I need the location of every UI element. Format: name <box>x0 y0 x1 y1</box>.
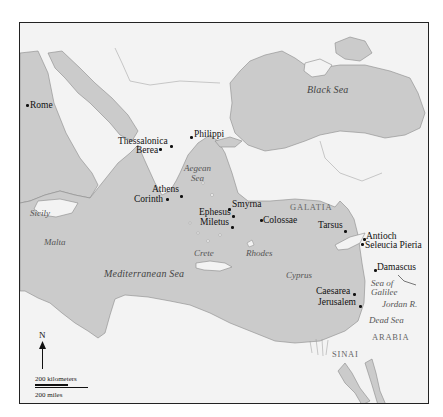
water-label-dead-sea: Dead Sea <box>369 316 404 325</box>
island-label-cyprus: Cyprus <box>286 271 312 280</box>
city-label-seleucia-pieria: Seleucia Pieria <box>365 241 422 251</box>
city-marker-caesarea <box>353 293 356 296</box>
island-label-crete: Crete <box>194 249 214 258</box>
region-label-arabia: ARABIA <box>372 333 409 342</box>
city-label-philippi: Philippi <box>194 130 224 140</box>
water-label-black-sea: Black Sea <box>307 85 349 95</box>
city-marker-ephesus <box>232 215 235 218</box>
city-marker-miletus <box>231 226 234 229</box>
city-label-rome: Rome <box>30 101 53 111</box>
city-marker-jerusalem <box>359 305 362 308</box>
water-label-galilee: Galilee <box>371 288 398 297</box>
region-label-galatia: GALATIA <box>290 203 332 212</box>
city-label-miletus: Miletus <box>200 218 229 228</box>
city-marker-seleucia-pieria <box>361 243 364 246</box>
island-label-sicily: Sicily <box>30 209 50 218</box>
city-label-tarsus: Tarsus <box>318 221 343 231</box>
city-marker-rome <box>26 104 29 107</box>
scale-label-km: 200 kilometers <box>35 375 77 383</box>
city-marker-athens <box>180 195 183 198</box>
city-label-colossae: Colossae <box>263 216 297 226</box>
city-label-caesarea: Caesarea <box>316 287 350 297</box>
city-label-jerusalem: Jerusalem <box>318 298 356 308</box>
region-label-sinai: SINAI <box>332 350 359 359</box>
scale-bar-mi <box>35 387 88 388</box>
city-label-berea: Berea <box>136 146 158 156</box>
city-label-corinth: Corinth <box>134 195 163 205</box>
city-marker-tarsus <box>344 230 347 233</box>
water-label-jordan-river: Jordan R. <box>382 300 417 309</box>
city-marker-corinth <box>166 198 169 201</box>
water-label-aegean-sea: Sea <box>191 174 204 183</box>
city-marker-thessalonica <box>170 145 173 148</box>
island-label-rhodes: Rhodes <box>246 249 273 258</box>
water-label-aegean: Aegean <box>184 164 211 173</box>
scale-bar-km <box>35 384 68 386</box>
water-label-mediterranean-sea: Mediterranean Sea <box>104 269 184 279</box>
island-label-malta: Malta <box>44 238 66 247</box>
city-marker-berea <box>159 148 162 151</box>
city-label-smyrna: Smyrna <box>232 200 262 210</box>
scale-label-mi: 200 miles <box>35 391 62 399</box>
map-frame: Rome Philippi Thessalonica Berea Athens … <box>19 22 429 404</box>
city-label-damascus: Damascus <box>377 263 416 273</box>
city-marker-philippi <box>190 136 193 139</box>
north-label: N <box>39 331 46 340</box>
